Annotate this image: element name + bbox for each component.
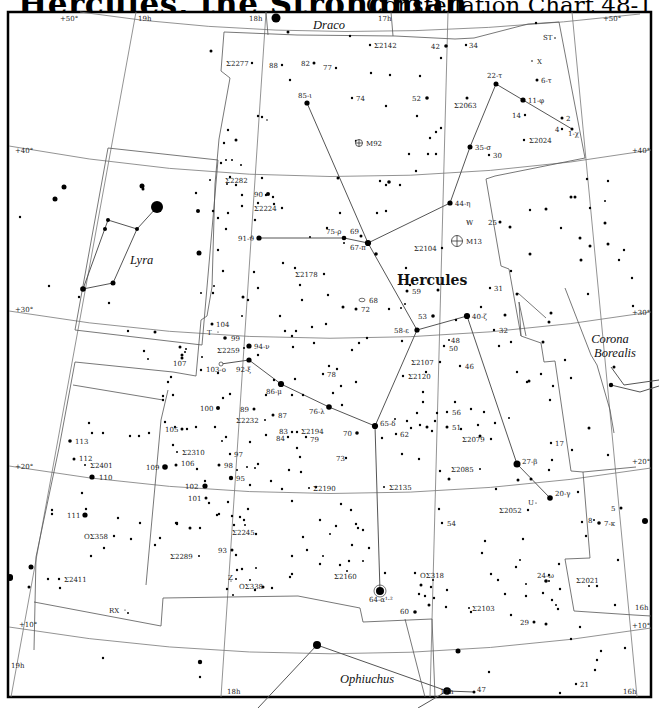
star-icon: [326, 404, 332, 410]
star-label: Σ2107: [411, 359, 434, 367]
star-icon: [257, 115, 259, 117]
star-label: ST: [543, 34, 553, 42]
star-icon: [384, 572, 386, 574]
star-icon: [154, 544, 156, 546]
star-icon: [588, 585, 590, 587]
star-icon: [221, 440, 223, 442]
star-icon: [466, 97, 469, 100]
star-icon: [337, 177, 340, 180]
star-icon: [102, 432, 104, 434]
star-icon: [202, 483, 207, 488]
star-icon: [313, 62, 316, 65]
star-icon: [454, 401, 456, 403]
star-icon: [609, 383, 613, 387]
star-icon: [388, 308, 390, 310]
star-icon: [292, 346, 294, 348]
star-icon: [575, 683, 577, 685]
star-label: 7-κ: [604, 520, 616, 528]
star-label: 52: [412, 95, 421, 103]
star-icon: [419, 75, 421, 77]
star-icon: [81, 492, 83, 494]
star-icon: [148, 432, 150, 434]
star-label: 87: [278, 412, 287, 420]
star-label: Σ2245: [232, 529, 255, 537]
star-icon: [632, 305, 634, 307]
star-label: 35-σ: [475, 144, 491, 152]
star-icon: [236, 469, 238, 471]
star-icon: [197, 251, 202, 256]
star-icon: [127, 612, 129, 614]
star-icon: [281, 207, 283, 209]
star-icon: [422, 401, 424, 403]
star-icon: [346, 570, 348, 572]
star-icon: [447, 200, 452, 205]
star-label: 103-o: [206, 366, 226, 374]
star-icon: [548, 321, 551, 324]
ra-label-19h-bottom: 19h: [11, 662, 25, 670]
star-icon: [205, 497, 208, 500]
star-icon: [300, 471, 302, 473]
star-icon: [235, 578, 237, 580]
star-icon: [138, 435, 140, 437]
star-icon: [406, 290, 409, 293]
ra-label-17h-bottom: 17h: [440, 688, 454, 696]
star-label: 79: [310, 436, 319, 444]
star-marker: Σ2194: [296, 428, 325, 436]
star-icon: [428, 604, 431, 607]
star-icon: [284, 330, 286, 332]
star-icon: [319, 563, 321, 565]
star-icon: [355, 381, 357, 383]
star-icon: [570, 638, 572, 640]
star-icon: [519, 559, 521, 561]
star-label: 75-ρ: [326, 228, 341, 236]
star-icon: [220, 162, 222, 164]
ra-label-18h-top: 18h: [249, 15, 263, 23]
star-icon: [419, 424, 421, 426]
star-icon: [504, 314, 507, 317]
star-icon: [288, 469, 290, 471]
star-icon: [550, 442, 552, 444]
star-icon: [554, 37, 556, 39]
star-icon: [490, 438, 492, 440]
ra-label-16h-bottom: 16h: [623, 688, 637, 696]
star-icon: [494, 422, 496, 424]
star-label: 44-η: [455, 200, 470, 208]
star-icon: [147, 358, 149, 360]
star-icon: [253, 271, 255, 273]
star-icon: [339, 212, 341, 214]
star-icon: [214, 426, 216, 428]
star-label: 27-β: [522, 458, 537, 466]
star-icon: [213, 285, 215, 287]
star-icon: [162, 399, 164, 401]
star-icon: [241, 315, 243, 317]
star-icon: [223, 142, 225, 144]
star-icon: [552, 385, 554, 387]
star-icon: [581, 521, 583, 523]
star-icon: [289, 79, 291, 81]
star-icon: [614, 604, 616, 606]
star-label: 70: [343, 430, 352, 438]
star-icon: [604, 222, 607, 225]
star-icon: [468, 145, 473, 150]
star-icon: [586, 178, 588, 180]
star-label: 97: [234, 451, 243, 459]
star-icon: [402, 375, 404, 377]
star-icon: [216, 406, 220, 410]
star-icon: [223, 336, 227, 340]
star-icon: [360, 235, 363, 238]
star-icon: [517, 479, 520, 482]
star-icon: [389, 74, 391, 76]
star-icon: [189, 527, 192, 530]
star-icon: [529, 209, 531, 211]
star-icon: [480, 306, 482, 308]
star-icon: [410, 427, 412, 429]
star-icon: [477, 424, 479, 426]
star-icon: [251, 62, 253, 64]
variable-star-103-icon: [219, 362, 223, 366]
star-marker: Σ2282: [225, 177, 248, 186]
star-icon: [418, 593, 420, 595]
globular-cluster-m92-icon: [356, 140, 363, 147]
star-icon: [198, 660, 202, 664]
star-icon: [73, 458, 76, 461]
star-label: 78: [327, 371, 336, 379]
